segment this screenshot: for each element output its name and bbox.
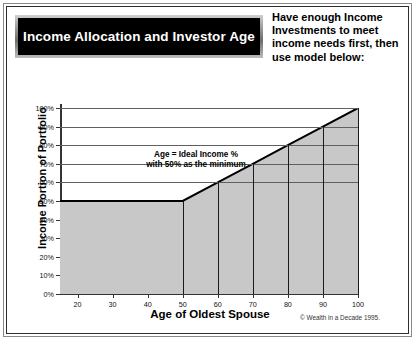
x-tick-mark-70 (253, 294, 254, 298)
annotation-line-1: Age = Ideal Income % (116, 150, 276, 160)
chart-container: Income Portion of Portfolio Age of Oldes… (0, 96, 417, 326)
x-tick-label-50: 50 (179, 300, 187, 309)
vertical-divider-100 (358, 108, 359, 294)
x-tick-mark-60 (218, 294, 219, 298)
x-tick-label-90: 90 (319, 300, 327, 309)
gridline-60 (60, 182, 358, 183)
copyright-notice: © Wealth in a Decade 1995. (300, 314, 380, 321)
y-tick-label-20: 20% (40, 252, 54, 261)
chart-annotation: Age = Ideal Income % with 50% as the min… (116, 150, 276, 170)
gridline-100 (60, 108, 358, 109)
y-tick-mark-80 (56, 145, 60, 146)
header-note-line-2: Investments to meet (272, 24, 412, 37)
header-note-line-4: use model below: (272, 51, 412, 64)
x-tick-mark-50 (183, 294, 184, 298)
vertical-divider-50 (183, 201, 184, 294)
header-note-line-3: income needs first, then (272, 37, 412, 50)
y-tick-mark-20 (56, 257, 60, 258)
x-tick-mark-30 (113, 294, 114, 298)
y-tick-label-100: 100% (36, 104, 54, 113)
gridline-90 (60, 127, 358, 128)
y-tick-label-0: 0% (44, 290, 54, 299)
x-tick-mark-80 (288, 294, 289, 298)
vertical-divider-70 (253, 164, 254, 294)
title-banner-inner: Income Allocation and Investor Age (18, 18, 260, 55)
y-tick-mark-100 (56, 108, 60, 109)
y-tick-label-80: 80% (40, 141, 54, 150)
x-tick-mark-40 (148, 294, 149, 298)
vertical-divider-80 (288, 145, 289, 294)
y-tick-mark-90 (56, 127, 60, 128)
y-tick-label-70: 70% (40, 159, 54, 168)
x-tick-label-70: 70 (249, 300, 257, 309)
x-tick-label-30: 30 (109, 300, 117, 309)
title-banner: Income Allocation and Investor Age (15, 15, 263, 58)
x-tick-label-20: 20 (74, 300, 82, 309)
y-tick-mark-50 (56, 201, 60, 202)
plot-area: 0%10%20%30%40%50%60%70%80%90%100% 203040… (60, 108, 358, 294)
y-tick-mark-40 (56, 220, 60, 221)
header-note-line-1: Have enough Income (272, 11, 412, 24)
x-tick-mark-100 (358, 294, 359, 298)
y-tick-label-10: 10% (40, 271, 54, 280)
x-tick-label-80: 80 (284, 300, 292, 309)
x-tick-mark-20 (78, 294, 79, 298)
y-tick-label-60: 60% (40, 178, 54, 187)
y-tick-label-50: 50% (40, 197, 54, 206)
y-tick-mark-70 (56, 164, 60, 165)
series-area-income-allocation (60, 108, 358, 294)
x-tick-label-60: 60 (214, 300, 222, 309)
page-title: Income Allocation and Investor Age (23, 29, 255, 44)
gridline-80 (60, 145, 358, 146)
x-tick-label-40: 40 (144, 300, 152, 309)
vertical-divider-90 (323, 127, 324, 294)
y-tick-mark-60 (56, 182, 60, 183)
y-tick-mark-10 (56, 275, 60, 276)
x-tick-label-100: 100 (352, 300, 364, 309)
vertical-divider-60 (218, 182, 219, 294)
y-tick-label-90: 90% (40, 122, 54, 131)
y-tick-mark-0 (56, 294, 60, 295)
y-tick-label-40: 40% (40, 215, 54, 224)
x-tick-mark-90 (323, 294, 324, 298)
y-tick-label-30: 30% (40, 234, 54, 243)
y-tick-mark-30 (56, 238, 60, 239)
annotation-line-2: with 50% as the minimum (116, 160, 276, 170)
chart-page: Income Allocation and Investor Age Have … (0, 0, 417, 342)
header-note: Have enough Income Investments to meet i… (272, 11, 412, 64)
